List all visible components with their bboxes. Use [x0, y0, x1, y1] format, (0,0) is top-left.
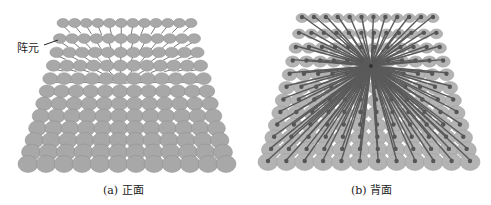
feed-connector	[429, 147, 433, 151]
array-element	[193, 60, 207, 71]
feed-connector	[266, 159, 270, 163]
element-label: 阵元	[17, 39, 39, 55]
feed-connector	[410, 135, 414, 139]
feed-connector	[371, 15, 375, 19]
array-element	[69, 19, 81, 28]
array-element	[54, 85, 70, 98]
array-element	[99, 73, 114, 85]
feed-connector	[320, 45, 324, 49]
array-element	[113, 60, 127, 71]
array-element	[108, 156, 128, 173]
array-element	[96, 97, 112, 110]
feed-connector	[409, 31, 413, 35]
array-element	[127, 34, 140, 44]
array-element	[167, 60, 181, 71]
feed-connector	[448, 85, 452, 89]
feed-connector	[383, 15, 387, 19]
array-element	[162, 156, 182, 173]
array-element	[53, 34, 66, 44]
array-element	[80, 19, 92, 28]
feed-connector	[322, 147, 326, 151]
array-element	[86, 60, 100, 71]
array-element	[185, 85, 201, 98]
array-element	[196, 73, 211, 85]
feed-connector	[302, 72, 306, 76]
array-element	[168, 73, 183, 85]
feed-connector	[318, 58, 322, 62]
array-element	[152, 47, 165, 57]
feed-connector	[346, 45, 350, 49]
feed-connector	[395, 15, 399, 19]
array-element	[66, 97, 82, 110]
array-element	[141, 97, 157, 110]
feed-connector	[411, 147, 415, 151]
feed-connector	[269, 147, 273, 151]
array-element	[100, 60, 114, 71]
feed-connector	[312, 15, 316, 19]
array-element	[72, 156, 92, 173]
array-element	[43, 73, 58, 85]
array-element	[104, 19, 116, 28]
feed-connector	[373, 58, 377, 62]
array-front-illustration	[0, 0, 245, 205]
array-element	[88, 47, 101, 57]
feed-connector	[449, 159, 453, 163]
array-element	[83, 85, 99, 98]
feed-connector	[333, 45, 337, 49]
array-element	[162, 19, 174, 28]
feed-connector	[447, 147, 451, 151]
feed-connector	[275, 122, 279, 126]
array-element	[139, 34, 152, 44]
array-element	[163, 34, 176, 44]
array-element	[156, 85, 172, 98]
feed-connector	[359, 15, 363, 19]
array-element	[140, 73, 155, 85]
array-element	[60, 60, 74, 71]
feed-connector	[304, 58, 308, 62]
array-element	[127, 47, 140, 57]
array-element	[139, 47, 152, 57]
feed-connector	[284, 85, 288, 89]
feed-connector	[272, 135, 276, 139]
array-element	[153, 60, 167, 71]
array-element	[185, 19, 197, 28]
array-element	[113, 73, 128, 85]
array-element	[111, 97, 127, 110]
array-element	[144, 156, 164, 173]
feed-connector	[347, 15, 351, 19]
array-element	[127, 60, 141, 71]
array-element	[36, 97, 52, 110]
feed-connector	[419, 15, 423, 19]
feed-hub	[369, 64, 373, 68]
feed-connector	[431, 15, 435, 19]
feed-connector	[336, 15, 340, 19]
array-element	[157, 97, 173, 110]
array-element	[68, 85, 84, 98]
array-element	[102, 34, 115, 44]
feed-connector	[316, 72, 320, 76]
feed-connector	[284, 159, 288, 163]
array-element	[154, 73, 169, 85]
feed-connector	[299, 85, 303, 89]
array-element	[138, 19, 150, 28]
feed-connector	[307, 45, 311, 49]
caption-front: (a) 正面	[103, 181, 144, 197]
caption-back: (b) 背面	[351, 181, 392, 197]
feed-connector	[304, 147, 308, 151]
array-element	[187, 97, 203, 110]
array-element	[202, 97, 218, 110]
feed-connector	[372, 31, 376, 35]
array-element	[51, 97, 67, 110]
array-element	[176, 34, 189, 44]
feed-connector	[347, 31, 351, 35]
feed-connector	[372, 45, 376, 49]
feed-connector	[458, 122, 462, 126]
array-element	[92, 19, 104, 28]
feed-connector	[454, 110, 458, 114]
feed-connector	[341, 135, 345, 139]
feed-connector	[332, 58, 336, 62]
array-element	[115, 34, 128, 44]
array-element	[18, 156, 38, 173]
panel-front-view: 阵元 (a) 正面	[0, 0, 245, 205]
feed-connector	[416, 72, 420, 76]
